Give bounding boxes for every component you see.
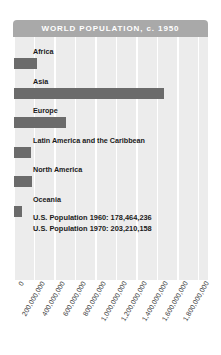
gridline [136, 37, 138, 280]
bar-label: Asia [33, 77, 48, 86]
gridline [75, 37, 77, 280]
bar-label: North America [33, 165, 82, 174]
gridline [177, 37, 179, 280]
plot-area: AfricaAsiaEuropeLatin America and the Ca… [13, 37, 208, 280]
bar [14, 206, 22, 217]
bar [14, 58, 37, 69]
chart-title: WORLD POPULATION, c. 1950 [42, 24, 180, 33]
annotation-line-1: U.S. Population 1960: 178,464,236 [33, 213, 152, 224]
gridline [157, 37, 159, 280]
bar [14, 88, 164, 99]
x-axis-tick-labels: 0200,000,000400,000,000600,000,000800,00… [13, 280, 208, 355]
bar-label: Latin America and the Caribbean [33, 136, 145, 145]
bar-label: Europe [33, 106, 58, 115]
x-tick-label: 0 [17, 280, 25, 287]
gridline [34, 37, 36, 280]
bar-label: Oceania [33, 195, 61, 204]
annotation-block: U.S. Population 1960: 178,464,236 U.S. P… [33, 213, 152, 234]
annotation-line-2: U.S. Population 1970: 203,210,158 [33, 224, 152, 235]
gridline [198, 37, 200, 280]
chart-header-bar: WORLD POPULATION, c. 1950 [13, 20, 208, 37]
chart-figure: WORLD POPULATION, c. 1950 AfricaAsiaEuro… [0, 0, 221, 355]
bar [14, 176, 32, 187]
gridline [95, 37, 97, 280]
bar [14, 147, 31, 158]
bar [14, 117, 66, 128]
gridline [116, 37, 118, 280]
gridline [54, 37, 56, 280]
gridline [13, 37, 15, 280]
bar-label: Africa [33, 47, 53, 56]
